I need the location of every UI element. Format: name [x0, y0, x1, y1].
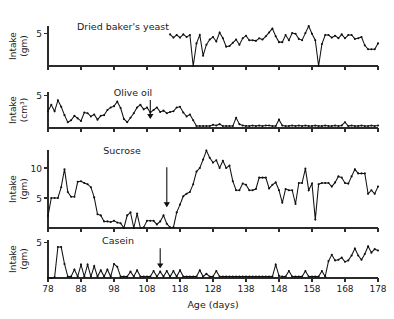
- panel-title-dried-bakers-yeast: Dried baker's yeast: [77, 21, 169, 32]
- data-point: [281, 276, 283, 278]
- data-point: [304, 168, 306, 170]
- data-point: [268, 124, 270, 126]
- data-point: [212, 276, 214, 278]
- data-point: [344, 37, 346, 39]
- data-point: [80, 180, 82, 182]
- x-tick-label: 178: [369, 284, 386, 294]
- data-point: [219, 123, 221, 125]
- data-point: [126, 121, 128, 123]
- data-point: [318, 183, 320, 185]
- data-point: [189, 276, 191, 278]
- data-point: [219, 276, 221, 278]
- data-point: [80, 120, 82, 122]
- data-point: [77, 181, 79, 183]
- data-point: [172, 110, 174, 112]
- data-point: [265, 35, 267, 37]
- data-point: [370, 48, 372, 50]
- data-point: [143, 108, 145, 110]
- data-point: [334, 35, 336, 37]
- y-axis-label: (gm): [19, 178, 29, 200]
- data-point: [258, 276, 260, 278]
- data-point: [327, 182, 329, 184]
- data-point: [156, 276, 158, 278]
- data-point: [357, 172, 359, 174]
- data-point: [195, 125, 197, 127]
- data-point: [209, 157, 211, 159]
- data-point: [162, 276, 164, 278]
- data-point: [248, 39, 250, 41]
- data-point: [248, 125, 250, 127]
- data-point: [225, 125, 227, 127]
- data-point: [278, 275, 280, 277]
- data-point: [238, 123, 240, 125]
- panel-dried-bakers-yeast: 5Intake(gm)Dried baker's yeast: [8, 21, 379, 70]
- data-point: [209, 125, 211, 127]
- data-point: [129, 271, 131, 273]
- data-point: [179, 204, 181, 206]
- intervention-arrow: [148, 100, 152, 118]
- data-point: [205, 273, 207, 275]
- data-point: [176, 106, 178, 108]
- data-point: [202, 125, 204, 127]
- data-point: [110, 106, 112, 108]
- data-point: [308, 276, 310, 278]
- data-point: [219, 167, 221, 169]
- data-point: [215, 159, 217, 161]
- data-point: [271, 125, 273, 127]
- data-point: [96, 213, 98, 215]
- data-point: [123, 118, 125, 120]
- data-point: [195, 171, 197, 173]
- data-point: [327, 260, 329, 262]
- data-point: [215, 124, 217, 126]
- data-point: [311, 33, 313, 35]
- y-axis-label: Intake: [8, 175, 18, 203]
- data-point: [341, 177, 343, 179]
- data-point: [159, 111, 161, 113]
- data-point: [179, 106, 181, 108]
- data-point: [364, 44, 366, 46]
- y-tick-label: 5: [36, 194, 42, 204]
- data-point: [123, 276, 125, 278]
- data-point: [337, 175, 339, 177]
- data-point: [166, 223, 168, 225]
- data-point: [291, 189, 293, 191]
- data-point: [192, 276, 194, 278]
- data-point: [354, 168, 356, 170]
- data-point: [232, 125, 234, 127]
- x-tick-label: 158: [303, 284, 320, 294]
- data-point: [347, 183, 349, 185]
- data-point: [169, 111, 171, 113]
- data-point: [248, 189, 250, 191]
- data-point: [103, 276, 105, 278]
- data-point: [318, 125, 320, 127]
- data-point: [278, 41, 280, 43]
- data-point: [367, 245, 369, 247]
- x-tick-label: 118: [171, 284, 188, 294]
- data-point: [252, 189, 254, 191]
- data-point: [304, 32, 306, 34]
- data-point: [311, 276, 313, 278]
- data-point: [314, 39, 316, 41]
- data-point: [331, 125, 333, 127]
- data-point: [351, 254, 353, 256]
- data-point: [331, 37, 333, 39]
- data-point: [90, 276, 92, 278]
- data-point: [182, 33, 184, 35]
- data-point: [60, 246, 62, 248]
- data-point: [199, 34, 201, 36]
- data-point: [255, 125, 257, 127]
- data-point: [149, 276, 151, 278]
- data-point: [110, 276, 112, 278]
- data-point: [374, 193, 376, 195]
- data-point: [50, 197, 52, 199]
- data-point: [87, 264, 89, 266]
- data-point: [87, 112, 89, 114]
- data-point: [166, 112, 168, 114]
- data-point: [146, 106, 148, 108]
- chart-canvas: 5Intake(gm)Dried baker's yeast5Intake(cm…: [0, 0, 394, 319]
- data-point: [153, 109, 155, 111]
- data-point: [146, 276, 148, 278]
- panel-axes: [48, 240, 378, 278]
- data-point: [238, 189, 240, 191]
- data-point: [304, 124, 306, 126]
